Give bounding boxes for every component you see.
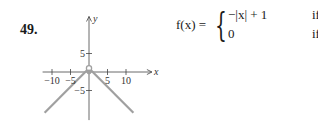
curly-brace: { (215, 5, 227, 43)
case-2-expr: 0 (228, 26, 235, 41)
y-tick-label: −5 (74, 85, 85, 96)
case-1-condition: if x ≠ 0 (312, 6, 318, 24)
x-axis-label: x (153, 66, 159, 77)
y-axis-label: y (92, 13, 98, 24)
x-tick-label: 10 (121, 75, 131, 86)
x-tick-label: −10 (44, 75, 60, 86)
formula-lhs: f(x) = (176, 16, 206, 34)
case-2-condition: if x = 0 (312, 25, 318, 43)
case-1-expr: −|x| + 1 (228, 7, 267, 22)
case-row-2: 0 if x = 0 (228, 25, 235, 43)
closed-point (87, 70, 92, 75)
x-tick-label: 5 (105, 75, 110, 86)
graph: xy −10−55105−5 (0, 0, 318, 123)
axes: xy (43, 13, 159, 121)
case-row-1: −|x| + 1 if x ≠ 0 (228, 6, 267, 24)
y-tick-label: 5 (80, 48, 85, 59)
points-group (86, 66, 91, 75)
